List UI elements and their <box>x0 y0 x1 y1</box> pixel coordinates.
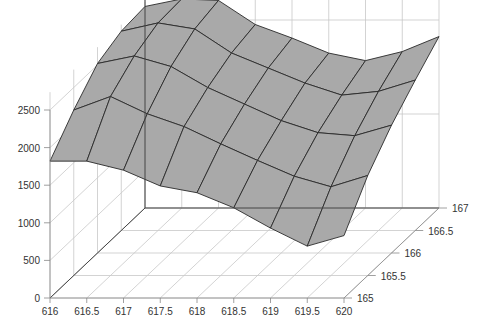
x-tick-label: 619.5 <box>295 306 320 317</box>
x-axis-tick-labels: 616616.5617617.5618618.5619619.5620 <box>42 298 353 317</box>
x-tick-label: 617.5 <box>148 306 173 317</box>
z-tick-label: 500 <box>23 255 40 266</box>
y-axis-tick-labels: 165165.5166166.5167 <box>344 203 469 304</box>
z-tick-label: 2000 <box>18 143 41 154</box>
x-tick-label: 620 <box>336 306 353 317</box>
z-axis-tick-labels: 05001000150020002500 <box>18 105 50 304</box>
surface-chart: 616616.5617617.5618618.5619619.5620 1651… <box>0 0 479 335</box>
z-tick-label: 1500 <box>18 180 41 191</box>
x-tick-label: 618 <box>189 306 206 317</box>
y-tick-label: 166 <box>405 248 422 259</box>
z-tick-label: 1000 <box>18 218 41 229</box>
y-tick-label: 165 <box>357 293 374 304</box>
y-tick-label: 166.5 <box>428 226 453 237</box>
x-tick-label: 616.5 <box>74 306 99 317</box>
x-tick-label: 618.5 <box>221 306 246 317</box>
y-tick-label: 167 <box>452 203 469 214</box>
y-tick-label: 165.5 <box>381 271 406 282</box>
surface-mesh <box>50 0 439 246</box>
x-tick-label: 619 <box>262 306 279 317</box>
z-tick-label: 0 <box>34 293 40 304</box>
z-tick-label: 2500 <box>18 105 41 116</box>
x-tick-label: 616 <box>42 306 59 317</box>
x-tick-label: 617 <box>115 306 132 317</box>
